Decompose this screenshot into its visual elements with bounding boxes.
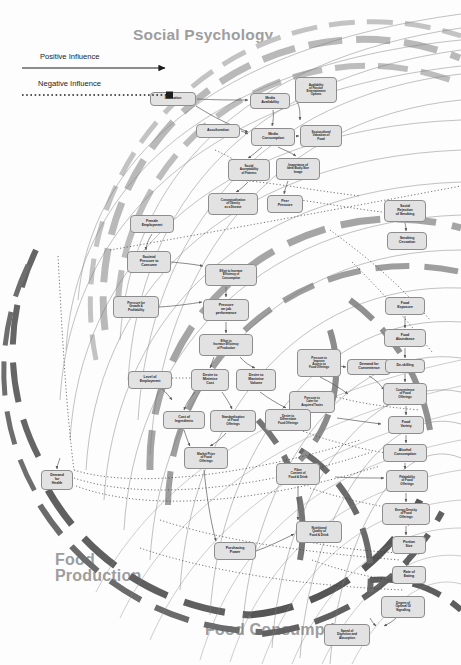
legend-negative-square-marker [166,92,173,99]
diagram-canvas: Social Psychology Food Production Food C… [0,0,461,665]
legend-symbols [0,0,461,665]
